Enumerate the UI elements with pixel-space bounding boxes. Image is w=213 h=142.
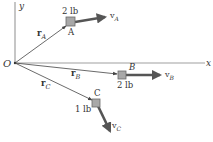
x-axis-label: x xyxy=(206,58,211,68)
velocity-a-label: vA xyxy=(109,11,120,22)
velocity-arrow-a xyxy=(75,17,105,22)
axes: y x O xyxy=(3,1,211,69)
y-axis-label: y xyxy=(18,1,25,11)
particle-c: C 1 lb vC xyxy=(75,88,122,132)
position-vector-c xyxy=(15,63,92,100)
origin-label: O xyxy=(3,58,11,69)
velocity-arrow-c xyxy=(98,106,110,131)
particle-b-weight: 2 lb xyxy=(117,80,134,90)
particle-system-diagram: y x O rA rB rC 2 lb A vA B 2 lb xyxy=(0,0,213,142)
block-b xyxy=(118,71,126,79)
block-a xyxy=(66,17,75,26)
particle-b: B 2 lb vB xyxy=(117,62,175,90)
position-vector-c-label: rC xyxy=(41,78,50,91)
particle-b-label: B xyxy=(128,62,135,72)
velocity-b-label: vB xyxy=(164,70,175,81)
block-c xyxy=(92,99,100,107)
particle-c-weight: 1 lb xyxy=(75,104,92,114)
particle-a: 2 lb A vA xyxy=(62,6,120,37)
particle-a-weight: 2 lb xyxy=(62,6,79,16)
velocity-c-label: vC xyxy=(111,121,122,132)
position-vector-a-label: rA xyxy=(37,28,46,41)
particle-a-label: A xyxy=(67,27,75,37)
position-vector-b xyxy=(15,63,117,74)
particle-c-label: C xyxy=(94,88,101,98)
